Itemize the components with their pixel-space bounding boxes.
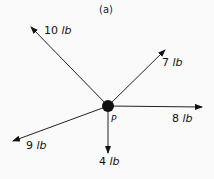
point-p-label: P — [111, 114, 116, 124]
force-magnitude: 8 — [172, 112, 179, 125]
force-arrow-10-lb — [31, 27, 108, 106]
point-p-dot — [102, 100, 114, 112]
force-unit: lb — [110, 155, 120, 168]
force-label-7-lb: 7 lb — [162, 56, 183, 69]
force-arrow-7-lb — [108, 50, 165, 106]
force-unit: lb — [173, 56, 183, 69]
force-magnitude: 9 — [26, 139, 33, 152]
force-unit: lb — [62, 24, 72, 37]
force-diagram — [0, 0, 214, 179]
force-magnitude: 4 — [99, 155, 106, 168]
force-unit: lb — [183, 112, 193, 125]
force-label-8-lb: 8 lb — [172, 112, 193, 125]
force-magnitude: 10 — [44, 24, 58, 37]
force-arrow-8-lb — [108, 106, 202, 107]
force-magnitude: 7 — [162, 56, 169, 69]
force-label-10-lb: 10 lb — [44, 24, 72, 37]
force-arrow-9-lb — [13, 106, 108, 141]
force-label-9-lb: 9 lb — [26, 139, 47, 152]
force-label-4-lb: 4 lb — [99, 155, 120, 168]
force-unit: lb — [37, 139, 47, 152]
